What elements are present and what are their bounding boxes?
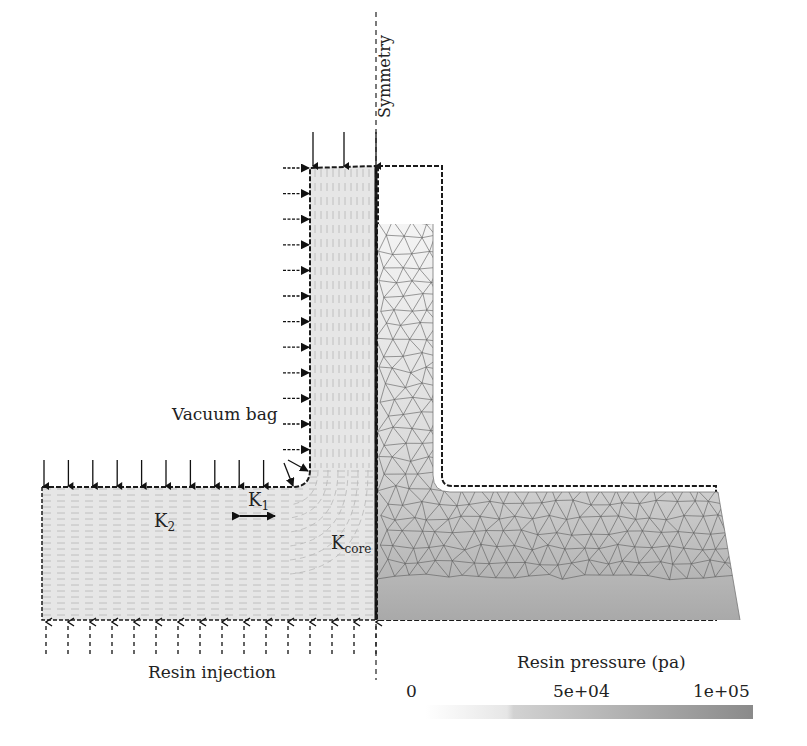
diagram-canvas: Symmetry Vacuum bag Resin injection K1 K…: [0, 0, 807, 746]
resin-injection-arrows: [46, 622, 376, 654]
vacuum-pressure-arrows-corner: [284, 460, 308, 486]
vacuum-pressure-arrows-top: [313, 132, 376, 166]
symmetry-label: Symmetry: [375, 35, 394, 118]
right-mesh-panel: [375, 166, 763, 624]
vacuum-pressure-arrows-side: [283, 168, 309, 450]
colorbar-gradient: [425, 705, 753, 719]
colorbar: Resin pressure (pa) 0 5e+04 1e+05: [406, 652, 753, 719]
colorbar-tick-mid: 5e+04: [553, 681, 610, 701]
vertical-web: [310, 168, 376, 468]
colorbar-tick-0: 0: [406, 681, 417, 701]
vacuum-pressure-arrows-down: [44, 460, 264, 486]
colorbar-title: Resin pressure (pa): [517, 652, 686, 672]
resin-injection-label: Resin injection: [148, 662, 276, 682]
colorbar-tick-max: 1e+05: [693, 681, 750, 701]
left-preform: [42, 166, 376, 620]
vacuum-bag-label: Vacuum bag: [171, 404, 278, 424]
